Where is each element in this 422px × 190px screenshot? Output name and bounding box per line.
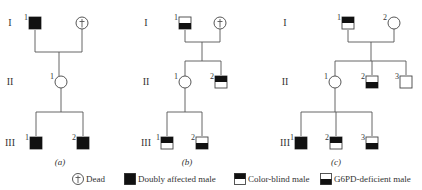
legend-item-color-blind: Color-blind male xyxy=(235,174,310,185)
individual-number: 1 xyxy=(290,133,294,142)
individual-number: 2 xyxy=(72,133,76,142)
unaffected-male-icon xyxy=(400,76,412,88)
doubly-affected-male-icon xyxy=(125,174,136,185)
g6pd-deficient-male-icon xyxy=(366,76,378,88)
doubly-affected-male-icon xyxy=(29,17,41,29)
female-icon xyxy=(179,76,191,88)
individual-number: 2 xyxy=(191,133,195,142)
generation-label: II xyxy=(282,76,289,87)
legend: DeadDoubly affected maleColor-blind male… xyxy=(73,174,411,185)
individual-III-2: 2 xyxy=(72,133,89,149)
individual-I-2 xyxy=(214,17,226,29)
individual-I-1: 1 xyxy=(24,13,41,29)
pedigree-c: IIIIII12121323(c) xyxy=(280,13,412,167)
female-icon xyxy=(55,76,67,88)
individual-number: 2 xyxy=(325,133,329,142)
doubly-affected-male-icon xyxy=(77,137,89,149)
legend-item-doubly-affected: Doubly affected male xyxy=(125,174,216,185)
individual-I-2: 2 xyxy=(383,13,400,29)
pedigree-a: IIIIII1112(a) xyxy=(5,13,89,167)
generation-label: III xyxy=(141,137,151,148)
individual-II-1: 1 xyxy=(324,72,341,88)
female-icon xyxy=(329,76,341,88)
individual-II-1: 1 xyxy=(174,72,191,88)
pedigree-figure: IIIIII1112(a)IIIIII11212(b)IIIIII1212132… xyxy=(0,0,422,190)
individual-II-1: 1 xyxy=(50,72,67,88)
generation-label: III xyxy=(5,137,15,148)
individual-number: 1 xyxy=(337,13,341,22)
individual-III-1: 1 xyxy=(290,133,307,149)
female-icon xyxy=(388,17,400,29)
individual-number: 2 xyxy=(361,72,365,81)
pedigree-canvas: IIIIII1112(a)IIIIII11212(b)IIIIII1212132… xyxy=(0,0,422,190)
doubly-affected-male-icon xyxy=(295,137,307,149)
individual-number: 1 xyxy=(174,72,178,81)
g6pd-deficient-male-icon xyxy=(196,137,208,149)
pedigree-caption: (a) xyxy=(55,157,66,167)
color-blind-male-icon xyxy=(330,137,342,149)
color-blind-male-icon xyxy=(215,76,227,88)
pedigree-caption: (c) xyxy=(331,157,341,167)
legend-label: Doubly affected male xyxy=(138,174,216,184)
color-blind-male-icon xyxy=(342,17,354,29)
individual-II-3: 3 xyxy=(395,72,412,88)
individual-I-1: 1 xyxy=(174,13,191,29)
generation-label: I xyxy=(8,17,11,28)
legend-label: Color-blind male xyxy=(248,174,310,184)
individual-III-2: 2 xyxy=(325,133,342,149)
individual-II-2: 2 xyxy=(361,72,378,88)
color-blind-male-icon xyxy=(161,137,173,149)
individual-number: 2 xyxy=(210,72,214,81)
individual-I-1: 1 xyxy=(337,13,354,29)
individual-number: 3 xyxy=(361,133,365,142)
legend-label: Dead xyxy=(86,174,105,184)
generation-label: I xyxy=(283,17,286,28)
individual-number: 2 xyxy=(383,13,387,22)
generation-label: I xyxy=(144,17,147,28)
pedigree-caption: (b) xyxy=(182,157,193,167)
individual-III-2: 2 xyxy=(191,133,208,149)
legend-item-g6pd-deficient: G6PD-deficient male xyxy=(321,174,411,185)
doubly-affected-male-icon xyxy=(30,137,42,149)
individual-I-2 xyxy=(76,17,88,29)
individual-number: 1 xyxy=(25,133,29,142)
individual-number: 1 xyxy=(156,133,160,142)
generation-label: II xyxy=(143,76,150,87)
individual-number: 1 xyxy=(324,72,328,81)
legend-item-dead: Dead xyxy=(73,174,106,185)
individual-II-2: 2 xyxy=(210,72,227,88)
generation-label: III xyxy=(280,137,290,148)
g6pd-deficient-male-icon xyxy=(321,174,332,185)
individual-III-3: 3 xyxy=(361,133,378,149)
individual-III-1: 1 xyxy=(156,133,173,149)
individual-number: 3 xyxy=(395,72,399,81)
individual-III-1: 1 xyxy=(25,133,42,149)
legend-label: G6PD-deficient male xyxy=(334,174,411,184)
generation-label: II xyxy=(7,76,14,87)
individual-number: 1 xyxy=(174,13,178,22)
g6pd-deficient-male-icon xyxy=(179,17,191,29)
g6pd-deficient-male-icon xyxy=(366,137,378,149)
pedigree-b: IIIIII11212(b) xyxy=(141,13,227,167)
individual-number: 1 xyxy=(50,72,54,81)
individual-number: 1 xyxy=(24,13,28,22)
color-blind-male-icon xyxy=(235,174,246,185)
